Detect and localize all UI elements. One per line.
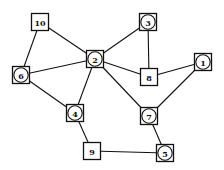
node-label: 5 — [162, 149, 168, 159]
node-label: 6 — [18, 71, 24, 81]
nodes-layer: 10238164795 — [13, 14, 212, 162]
node-label: 10 — [34, 18, 46, 28]
node-5: 5 — [157, 145, 174, 162]
node-9: 9 — [84, 143, 101, 160]
node-label: 7 — [146, 112, 152, 122]
node-label: 8 — [146, 73, 152, 83]
node-label: 1 — [200, 58, 206, 68]
node-7: 7 — [141, 108, 158, 125]
node-2: 2 — [87, 51, 104, 68]
edges-layer — [21, 22, 203, 153]
node-4: 4 — [67, 105, 84, 122]
node-label: 9 — [89, 147, 95, 157]
node-3: 3 — [140, 14, 157, 31]
node-label: 2 — [92, 55, 98, 65]
node-label: 4 — [72, 109, 78, 119]
node-6: 6 — [13, 67, 30, 84]
edge-6-2 — [21, 59, 95, 75]
graph-diagram: 10238164795 — [0, 0, 224, 170]
edge-9-5 — [92, 151, 165, 153]
node-10: 10 — [32, 14, 49, 31]
node-8: 8 — [141, 69, 158, 86]
node-label: 3 — [145, 18, 151, 28]
node-1: 1 — [195, 54, 212, 71]
